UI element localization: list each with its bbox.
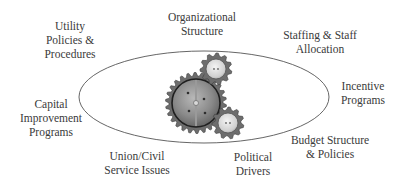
factor-label-union-civil-service: Union/CivilService Issues <box>104 149 169 177</box>
factor-label-line: Organizational <box>168 10 236 24</box>
factor-label-incentive-programs: IncentivePrograms <box>341 79 385 107</box>
factor-label-line: Procedures <box>44 47 95 61</box>
factor-label-line: Policies & <box>44 33 95 47</box>
factor-label-line: Utility <box>44 19 95 33</box>
factor-label-capital-improvement: CapitalImprovementPrograms <box>20 97 82 139</box>
factor-label-line: Allocation <box>283 42 357 56</box>
factor-label-line: Drivers <box>234 164 272 178</box>
factor-label-line: Budget Structure <box>291 133 369 147</box>
factor-label-line: Structure <box>168 24 236 38</box>
factor-label-line: Union/Civil <box>104 149 169 163</box>
factor-label-line: Political <box>234 150 272 164</box>
factor-label-line: Capital <box>20 97 82 111</box>
factor-label-line: Service Issues <box>104 163 169 177</box>
factor-label-line: Programs <box>20 125 82 139</box>
factor-label-staffing-allocation: Staffing & StaffAllocation <box>283 28 357 56</box>
factor-label-line: Improvement <box>20 111 82 125</box>
factor-label-political-drivers: PoliticalDrivers <box>234 150 272 178</box>
factor-label-budget-structure: Budget Structure& Policies <box>291 133 369 161</box>
factor-label-line: Incentive <box>341 79 385 93</box>
gears-graphic <box>166 53 244 139</box>
factor-label-line: & Policies <box>291 147 369 161</box>
factor-label-organizational-structure: OrganizationalStructure <box>168 10 236 38</box>
factor-label-utility-policies: UtilityPolicies &Procedures <box>44 19 95 61</box>
factor-label-line: Staffing & Staff <box>283 28 357 42</box>
factor-label-line: Programs <box>341 93 385 107</box>
